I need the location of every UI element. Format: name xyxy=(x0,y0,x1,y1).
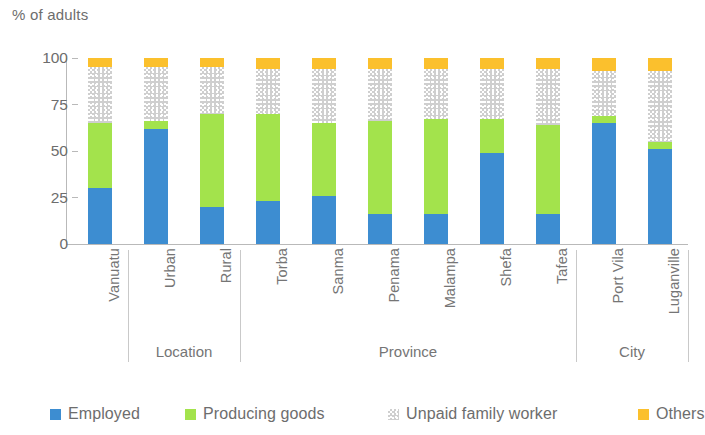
bar-segment-others xyxy=(200,58,224,67)
stacked-bar[interactable] xyxy=(536,58,560,244)
group-label-city: City xyxy=(576,343,688,360)
group-separator xyxy=(688,250,689,362)
y-axis-tick-label: 0 xyxy=(59,236,72,252)
legend-item-others[interactable]: Others xyxy=(638,406,705,422)
y-axis-tick-label: 100 xyxy=(42,50,72,66)
bar-segment-others xyxy=(592,58,616,71)
bar-segment-others xyxy=(648,58,672,71)
bar-segment-producing-goods xyxy=(368,121,392,214)
bar-segment-employed xyxy=(424,214,448,244)
x-axis-label-tafea: Tafea xyxy=(555,248,569,340)
bar-slot xyxy=(184,58,240,244)
bar-segment-unpaid-family-worker xyxy=(312,69,336,123)
y-axis-tick-label: 50 xyxy=(51,143,72,159)
bar-segment-employed xyxy=(648,149,672,244)
y-axis-title: % of adults xyxy=(12,6,88,23)
bar-segment-employed xyxy=(480,153,504,244)
bar-segment-others xyxy=(88,58,112,67)
stacked-bar[interactable] xyxy=(368,58,392,244)
bar-segment-others xyxy=(480,58,504,69)
bar-segment-others xyxy=(256,58,280,69)
bar-segment-employed xyxy=(592,123,616,244)
bar-segment-producing-goods xyxy=(256,114,280,201)
legend-swatch-icon xyxy=(185,409,196,420)
group-label-province: Province xyxy=(240,343,576,360)
bar-slot xyxy=(128,58,184,244)
legend-swatch-icon xyxy=(388,409,399,420)
bar-segment-producing-goods xyxy=(648,142,672,149)
stacked-bar[interactable] xyxy=(592,58,616,244)
x-axis-label-malampa: Malampa xyxy=(443,248,457,340)
stacked-bar[interactable] xyxy=(312,58,336,244)
legend-item-producing-goods[interactable]: Producing goods xyxy=(185,406,325,422)
bar-slot xyxy=(72,58,128,244)
bar-slot xyxy=(520,58,576,244)
bar-slot xyxy=(240,58,296,244)
bar-segment-producing-goods xyxy=(536,125,560,214)
bar-segment-others xyxy=(424,58,448,69)
legend-label: Others xyxy=(656,406,705,422)
bar-slot xyxy=(352,58,408,244)
bar-segment-unpaid-family-worker xyxy=(480,69,504,119)
bar-slot xyxy=(408,58,464,244)
bar-segment-unpaid-family-worker xyxy=(424,69,448,119)
bar-segment-others xyxy=(536,58,560,69)
x-axis-line xyxy=(66,244,688,245)
bar-segment-employed xyxy=(144,129,168,244)
bar-slot xyxy=(464,58,520,244)
bar-segment-unpaid-family-worker xyxy=(592,71,616,116)
x-axis-label-penama: Penama xyxy=(387,248,401,340)
bar-segment-others xyxy=(144,58,168,67)
bar-segment-unpaid-family-worker xyxy=(256,69,280,114)
bar-segment-producing-goods xyxy=(312,123,336,196)
legend-label: Unpaid family worker xyxy=(406,406,557,422)
bar-segment-unpaid-family-worker xyxy=(144,67,168,121)
x-axis-label-sanma: Sanma xyxy=(331,248,345,340)
stacked-bar[interactable] xyxy=(648,58,672,244)
legend-item-employed[interactable]: Employed xyxy=(50,406,140,422)
legend-item-unpaid-family-worker[interactable]: Unpaid family worker xyxy=(388,406,557,422)
bar-series-container xyxy=(72,58,688,244)
bar-segment-unpaid-family-worker xyxy=(88,67,112,123)
plot-area: 0255075100 xyxy=(72,58,688,244)
bar-segment-unpaid-family-worker xyxy=(368,69,392,121)
y-axis-tick-label: 25 xyxy=(51,190,72,206)
bar-segment-producing-goods xyxy=(88,123,112,188)
bar-segment-employed xyxy=(536,214,560,244)
x-axis-label-urban: Urban xyxy=(163,248,177,340)
stacked-bar[interactable] xyxy=(88,58,112,244)
bar-slot xyxy=(576,58,632,244)
bar-segment-producing-goods xyxy=(480,119,504,152)
chart-legend: EmployedProducing goodsUnpaid family wor… xyxy=(0,406,696,434)
x-axis-label-shefa: Shefa xyxy=(499,248,513,340)
bar-segment-employed xyxy=(312,196,336,244)
y-axis-tick-label: 75 xyxy=(51,97,72,113)
x-axis-label-port-vila: Port Vila xyxy=(611,248,625,340)
bar-segment-producing-goods xyxy=(200,114,224,207)
legend-swatch-icon xyxy=(50,409,61,420)
x-axis-label-torba: Torba xyxy=(275,248,289,340)
stacked-bar[interactable] xyxy=(256,58,280,244)
bar-segment-unpaid-family-worker xyxy=(648,71,672,142)
legend-label: Employed xyxy=(68,406,140,422)
bar-segment-unpaid-family-worker xyxy=(536,69,560,125)
legend-swatch-icon xyxy=(638,409,649,420)
stacked-bar[interactable] xyxy=(200,58,224,244)
bar-segment-unpaid-family-worker xyxy=(200,67,224,114)
bar-slot xyxy=(296,58,352,244)
bar-segment-producing-goods xyxy=(144,121,168,128)
bar-segment-producing-goods xyxy=(592,116,616,123)
legend-label: Producing goods xyxy=(203,406,325,422)
bar-segment-employed xyxy=(256,201,280,244)
stacked-bar[interactable] xyxy=(480,58,504,244)
bar-segment-employed xyxy=(88,188,112,244)
stacked-bar[interactable] xyxy=(144,58,168,244)
bar-segment-others xyxy=(368,58,392,69)
x-axis-label-rural: Rural xyxy=(219,248,233,340)
stacked-bar[interactable] xyxy=(424,58,448,244)
bar-segment-employed xyxy=(200,207,224,244)
bar-segment-others xyxy=(312,58,336,69)
x-axis-label-luganville: Luganville xyxy=(667,248,681,340)
bar-segment-employed xyxy=(368,214,392,244)
